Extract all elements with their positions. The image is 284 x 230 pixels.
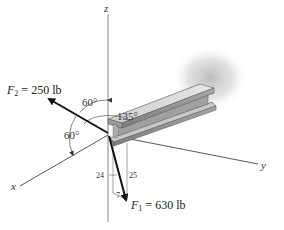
x-axis (20, 135, 108, 186)
slope-vertical-label: 24 (96, 172, 104, 180)
angle-label-x-f2: 60° (64, 130, 79, 141)
y-axis-label: y (261, 160, 266, 171)
slope-hypotenuse-label: 25 (129, 172, 137, 180)
y-axis (125, 138, 258, 164)
force-f2-label: F2 = 250 lb (7, 84, 61, 98)
force-diagram: z x y F2 = 250 lb F1 = 630 lb 60° 60° 13… (0, 0, 284, 230)
force-f1-equals: = (145, 198, 152, 212)
force-f1-magnitude: 630 lb (155, 198, 185, 212)
force-f2-equals: = (21, 83, 28, 97)
force-f1-subscript: 1 (138, 204, 142, 213)
angle-label-135: 135° (117, 111, 138, 122)
z-axis-label: z (104, 3, 108, 14)
slope-horizontal-label: 7 (116, 192, 120, 200)
x-axis-label: x (11, 181, 16, 192)
angle-label-z-f2: 60° (82, 97, 97, 108)
force-f1-label: F1 = 630 lb (131, 199, 185, 213)
force-f2-subscript: 2 (14, 89, 18, 98)
force-f2-magnitude: 250 lb (31, 83, 61, 97)
diagram-canvas (0, 0, 284, 230)
